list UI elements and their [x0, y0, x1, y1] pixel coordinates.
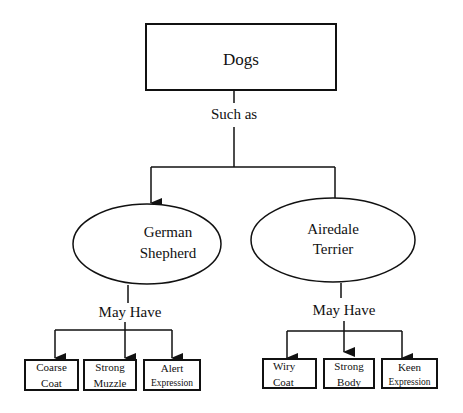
- root-label: Dogs: [146, 51, 336, 68]
- trait-label-line1: Coarse: [36, 361, 67, 373]
- trait-label-line2: Coat: [273, 376, 294, 388]
- trait-label-line2: Body: [337, 376, 361, 388]
- german-shepherd-label-line1: German: [118, 225, 218, 240]
- german-shepherd-relation-label: May Have: [80, 305, 180, 320]
- trait-label-line1: Alert: [161, 362, 184, 374]
- trait-box-keen-expression: Keen Expression: [381, 358, 438, 389]
- trait-label-line1: Strong: [334, 360, 363, 372]
- airedale-terrier-label-line1: Airedale: [283, 222, 383, 237]
- german-shepherd-ellipse: [73, 204, 221, 284]
- airedale-terrier-ellipse: [251, 198, 415, 282]
- trait-box-strong-body: Strong Body: [323, 358, 375, 389]
- trait-box-wiry-coat: Wiry Coat: [262, 358, 317, 389]
- airedale-terrier-label-line2: Terrier: [283, 242, 383, 257]
- trait-box-alert-expression: Alert Expression: [143, 359, 201, 391]
- german-shepherd-label-line2: Shepherd: [118, 246, 218, 261]
- airedale-terrier-relation-label: May Have: [294, 303, 394, 318]
- trait-box-strong-muzzle: Strong Muzzle: [83, 359, 137, 391]
- root-relation-label: Such as: [184, 107, 284, 122]
- trait-label-line1: Keen: [398, 361, 421, 373]
- trait-label-line2: Coat: [41, 377, 62, 389]
- trait-label-line2: Expression: [388, 377, 430, 387]
- trait-label-line2: Muzzle: [94, 377, 127, 389]
- trait-label-line1: Wiry: [273, 360, 295, 372]
- trait-box-coarse-coat: Coarse Coat: [24, 359, 79, 391]
- trait-label-line2: Expression: [151, 378, 193, 388]
- trait-label-line1: Strong: [95, 361, 124, 373]
